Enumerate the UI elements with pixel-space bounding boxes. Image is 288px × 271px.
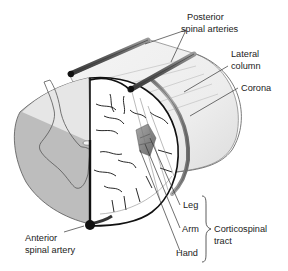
label-lateral-column-2: column <box>231 61 261 71</box>
label-posterior-spinal-arteries-2: spinal arteries <box>181 24 239 34</box>
label-leg: Leg <box>183 200 198 210</box>
label-hand: Hand <box>176 248 198 258</box>
corticospinal-bracket <box>202 196 211 262</box>
label-corona: Corona <box>241 83 272 93</box>
label-posterior-spinal-arteries-1: Posterior <box>187 12 224 22</box>
label-corticospinal-tract-2: tract <box>214 236 232 246</box>
spinal-cord-diagram: Posterior spinal arteries Lateral column… <box>0 0 288 271</box>
label-anterior-spinal-artery-1: Anterior <box>25 233 57 243</box>
label-lateral-column-1: Lateral <box>231 49 259 59</box>
label-arm: Arm <box>182 224 199 234</box>
label-anterior-spinal-artery-2: spinal artery <box>25 245 75 255</box>
label-corticospinal-tract-1: Corticospinal <box>214 224 267 234</box>
cross-section-left-half <box>14 78 93 224</box>
